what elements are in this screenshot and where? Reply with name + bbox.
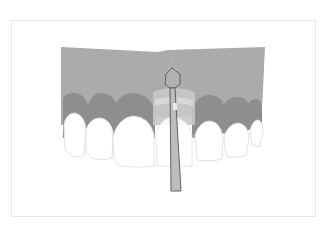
instrument-marker (173, 103, 177, 110)
tooth (195, 121, 223, 161)
tooth (64, 113, 86, 157)
tooth (86, 118, 113, 160)
tooth (113, 116, 154, 167)
dental-illustration (0, 0, 329, 234)
tooth (250, 120, 263, 146)
